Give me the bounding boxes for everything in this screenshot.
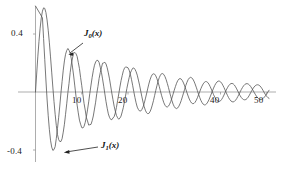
x-tick-label-10: 10 <box>72 95 81 105</box>
curve-label-j1-base: J <box>101 140 106 150</box>
curve-label-j1-subscript: 1 <box>106 144 109 151</box>
bessel-function-plot: 0.4 -0.4 10 20 40 50 J0(x) J1(x) <box>0 0 281 170</box>
curve-label-j0: J0(x) <box>84 28 102 38</box>
annotation-arrow-j1 <box>64 147 98 154</box>
plot-canvas <box>0 0 281 170</box>
y-tick-label-neg-0-4: -0.4 <box>7 146 22 156</box>
curve-j0 <box>36 6 270 150</box>
axes-group <box>18 6 276 162</box>
x-tick-label-40: 40 <box>210 95 219 105</box>
curve-label-j0-base: J <box>84 28 89 38</box>
curve-label-j0-arg: (x) <box>92 28 103 38</box>
curve-label-j1-arg: (x) <box>109 140 120 150</box>
x-tick-label-20: 20 <box>118 95 127 105</box>
curve-label-j1: J1(x) <box>101 140 119 150</box>
x-tick-label-50: 50 <box>254 95 263 105</box>
curve-label-j0-subscript: 0 <box>89 32 92 39</box>
y-tick-label-0-4: 0.4 <box>11 28 23 38</box>
series-group <box>36 6 270 150</box>
